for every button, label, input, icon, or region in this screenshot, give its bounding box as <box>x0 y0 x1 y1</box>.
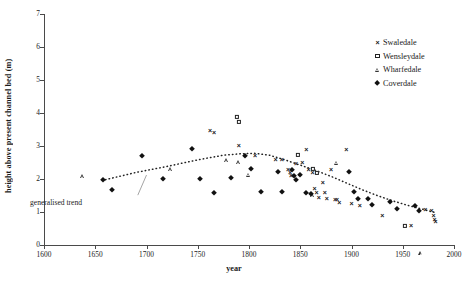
x-tick-label: 2000 <box>447 251 462 258</box>
x-tick <box>198 245 199 249</box>
x-tick <box>249 245 250 249</box>
legend-label: Swaledale <box>383 38 417 47</box>
marker-x: × <box>375 39 379 46</box>
y-tick-label: 2 <box>36 175 40 182</box>
legend-label: Wensleydale <box>383 52 425 61</box>
x-tick-label: 1850 <box>293 251 308 258</box>
x-tick <box>44 245 45 249</box>
x-tick <box>147 245 148 249</box>
marker-triangle <box>376 68 380 72</box>
legend-label: Coverdale <box>383 79 417 88</box>
x-tick-label: 1600 <box>37 251 52 258</box>
marker-triangle <box>419 251 423 255</box>
x-tick-label: 1650 <box>88 251 103 258</box>
annotation-generalised-trend: generalised trend <box>30 198 82 207</box>
legend-marker-triangle-icon <box>372 68 383 72</box>
x-tick-label: 1800 <box>242 251 257 258</box>
legend-label: Wharfedale <box>383 65 421 74</box>
y-tick-label: 4 <box>36 109 40 116</box>
legend-item-swaledale: ×Swaledale <box>372 36 425 50</box>
y-tick-label: 5 <box>36 76 40 83</box>
x-tick <box>454 245 455 249</box>
x-axis-title: year <box>0 264 468 273</box>
x-tick-label: 1900 <box>344 251 359 258</box>
x-tick-label: 1700 <box>139 251 154 258</box>
y-tick-label: 1 <box>36 208 40 215</box>
y-axis-title: height above present channel bed (m) <box>1 26 15 226</box>
legend-item-wharfedale: Wharfedale <box>372 63 425 77</box>
x-tick <box>403 245 404 249</box>
legend-marker-square-icon <box>372 54 383 58</box>
x-tick <box>300 245 301 249</box>
legend-item-wensleydale: Wensleydale <box>372 50 425 64</box>
x-tick-label: 1750 <box>190 251 205 258</box>
figure-caption <box>2 278 302 286</box>
marker-square <box>375 54 379 58</box>
x-tick <box>95 245 96 249</box>
chart-figure: height above present channel bed (m) yea… <box>0 0 468 286</box>
y-tick-label: 7 <box>36 10 40 17</box>
x-tick <box>352 245 353 249</box>
legend-marker-diamond-icon <box>372 81 383 85</box>
chart-legend: ×SwaledaleWensleydaleWharfedaleCoverdale <box>372 36 425 90</box>
y-tick-label: 3 <box>36 142 40 149</box>
legend-item-coverdale: Coverdale <box>372 77 425 91</box>
y-tick-label: 0 <box>36 241 40 248</box>
y-tick-label: 6 <box>36 43 40 50</box>
legend-marker-x-icon: × <box>372 39 383 46</box>
x-tick-label: 1950 <box>395 251 410 258</box>
marker-diamond <box>374 80 380 86</box>
